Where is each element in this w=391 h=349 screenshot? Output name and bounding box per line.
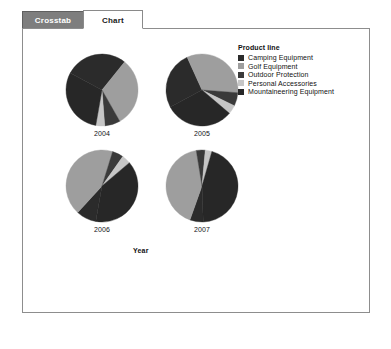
legend-item[interactable]: Camping Equipment (238, 54, 334, 61)
legend-item-label: Outdoor Protection (248, 71, 309, 78)
tab-bar: Crosstab Chart (22, 10, 143, 29)
chart-screen: Crosstab Chart 2004 2005 2006 2007 (0, 0, 391, 349)
tab-crosstab-label: Crosstab (35, 16, 71, 25)
pie-chart-svg (165, 149, 239, 223)
pie-panel-label: 2007 (165, 226, 239, 233)
legend-swatch-icon (238, 80, 244, 86)
legend-item-label: Personal Accessories (248, 80, 317, 87)
pie-panel-2005[interactable]: 2005 (165, 53, 239, 137)
legend: Product line Camping EquipmentGolf Equip… (238, 44, 334, 97)
legend-item-label: Camping Equipment (248, 54, 313, 61)
pie-panel-2006[interactable]: 2006 (65, 149, 139, 233)
tab-chart[interactable]: Chart (83, 10, 143, 29)
pie-panel-label: 2006 (65, 226, 139, 233)
pie-chart-svg (65, 149, 139, 223)
legend-swatch-icon (238, 55, 244, 61)
legend-title: Product line (238, 44, 334, 51)
legend-item[interactable]: Personal Accessories (238, 80, 334, 87)
legend-swatch-icon (238, 63, 244, 69)
legend-item[interactable]: Mountaineering Equipment (238, 88, 334, 95)
chart-panel: 2004 2005 2006 2007 Year Product line Ca… (22, 28, 370, 313)
pie-panel-2004[interactable]: 2004 (65, 53, 139, 137)
legend-item[interactable]: Outdoor Protection (238, 71, 334, 78)
legend-items: Camping EquipmentGolf EquipmentOutdoor P… (238, 54, 334, 95)
pie-panel-label: 2004 (65, 130, 139, 137)
pie-chart-svg (165, 53, 239, 127)
legend-swatch-icon (238, 72, 244, 78)
pie-panel-label: 2005 (165, 130, 239, 137)
chart-plot-area: 2004 2005 2006 2007 Year Product line Ca… (23, 29, 369, 312)
pie-chart-svg (65, 53, 139, 127)
pie-panel-2007[interactable]: 2007 (165, 149, 239, 233)
tab-chart-label: Chart (102, 16, 124, 25)
legend-item-label: Mountaineering Equipment (248, 88, 334, 95)
tab-crosstab[interactable]: Crosstab (22, 11, 84, 29)
legend-item[interactable]: Golf Equipment (238, 63, 334, 70)
legend-item-label: Golf Equipment (248, 63, 298, 70)
legend-swatch-icon (238, 89, 244, 95)
category-axis-title: Year (133, 247, 149, 254)
